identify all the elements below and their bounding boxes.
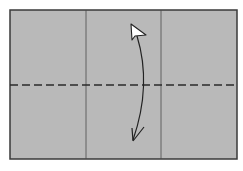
origami-diagram: [0, 0, 243, 171]
